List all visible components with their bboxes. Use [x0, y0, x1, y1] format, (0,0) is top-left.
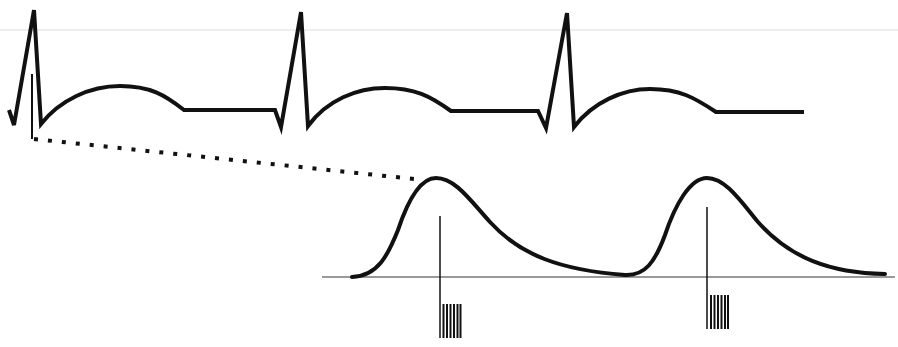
- ecg-beat-2: [272, 12, 538, 127]
- zoom-connector-line: [34, 139, 414, 179]
- diagram-canvas: ECG waveform with magnified pulse wavefo…: [0, 0, 898, 347]
- ecg-trace: [9, 10, 804, 128]
- pulse-waveform: [352, 178, 885, 277]
- diagram-svg: [0, 0, 898, 347]
- sampling-marker-2: [707, 207, 728, 329]
- ecg-beat-1: [9, 10, 272, 125]
